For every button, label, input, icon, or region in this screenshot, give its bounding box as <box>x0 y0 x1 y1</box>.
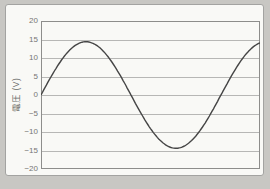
chart-panel: 電圧 (V) 20151050−5−10−15−20 <box>5 4 264 176</box>
y-tick-label: −20 <box>6 164 38 174</box>
voltage-chart: 電圧 (V) 20151050−5−10−15−20 <box>6 5 263 175</box>
y-tick-label: −15 <box>6 146 38 156</box>
plot-area <box>41 21 260 169</box>
y-tick-label: 20 <box>6 16 38 26</box>
y-tick-label: 10 <box>6 53 38 63</box>
y-tick-label: −10 <box>6 127 38 137</box>
y-tick-label: 15 <box>6 35 38 45</box>
y-tick-label: 0 <box>6 90 38 100</box>
y-tick-label: −5 <box>6 109 38 119</box>
page-background: { "chart_data": { "type": "line", "title… <box>0 0 270 189</box>
y-tick-label: 5 <box>6 72 38 82</box>
y-axis-tick-labels: 20151050−5−10−15−20 <box>6 5 38 175</box>
